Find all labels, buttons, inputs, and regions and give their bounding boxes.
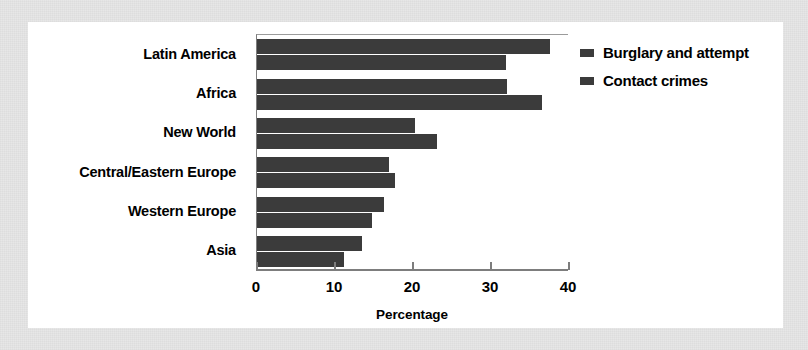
category-label: Asia xyxy=(26,243,236,258)
legend-label: Contact crimes xyxy=(603,72,708,89)
figure-page: Latin AmericaAfricaNew WorldCentral/East… xyxy=(28,22,783,328)
bar-burglary xyxy=(257,39,550,54)
bar-contact xyxy=(257,213,372,228)
category-axis-labels: Latin AmericaAfricaNew WorldCentral/East… xyxy=(28,34,244,270)
category-label: Africa xyxy=(26,86,236,101)
category-label: Western Europe xyxy=(26,204,236,219)
screenshot-root: Latin AmericaAfricaNew WorldCentral/East… xyxy=(0,0,808,350)
legend-swatch-icon xyxy=(580,77,594,85)
bar-contact xyxy=(257,252,344,267)
x-tick xyxy=(334,262,336,270)
legend-item: Contact crimes xyxy=(580,72,780,89)
x-tick-label: 40 xyxy=(548,278,588,295)
bar-contact xyxy=(257,95,542,110)
legend-swatch-icon xyxy=(580,49,594,57)
x-tick-label: 20 xyxy=(392,278,432,295)
x-tick-label: 30 xyxy=(470,278,510,295)
legend-label: Burglary and attempt xyxy=(603,44,749,61)
x-axis-title: Percentage xyxy=(256,307,568,322)
x-tick xyxy=(490,262,492,270)
bar-contact xyxy=(257,134,437,149)
x-tick-label: 0 xyxy=(236,278,276,295)
legend-item: Burglary and attempt xyxy=(580,44,780,61)
x-tick xyxy=(568,262,570,270)
x-tick xyxy=(256,262,258,270)
x-tick xyxy=(412,262,414,270)
x-tick-label: 10 xyxy=(314,278,354,295)
chart-legend: Burglary and attemptContact crimes xyxy=(580,44,780,100)
bar-burglary xyxy=(257,118,415,133)
bar-contact xyxy=(257,173,395,188)
grouped-bar-chart: Latin AmericaAfricaNew WorldCentral/East… xyxy=(28,22,783,328)
bar-contact xyxy=(257,55,506,70)
bar-burglary xyxy=(257,157,389,172)
category-label: Latin America xyxy=(26,47,236,62)
plot-area xyxy=(256,34,568,270)
bar-burglary xyxy=(257,236,362,251)
bar-burglary xyxy=(257,197,384,212)
category-label: Central/Eastern Europe xyxy=(26,165,236,180)
bar-burglary xyxy=(257,79,507,94)
category-label: New World xyxy=(26,125,236,140)
